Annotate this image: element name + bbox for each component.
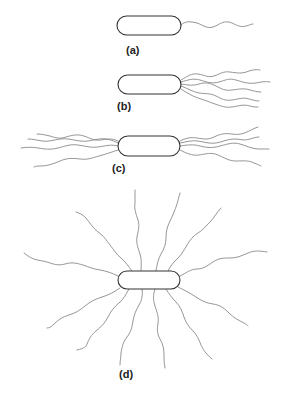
flagellum xyxy=(180,150,261,166)
flagellum xyxy=(178,287,248,326)
panel-label-b: (b) xyxy=(117,100,131,112)
flagellum xyxy=(154,289,166,368)
bacterium-cell xyxy=(118,75,181,94)
panel-label-d: (d) xyxy=(119,368,133,380)
bacterium-cell xyxy=(118,271,180,289)
flagella-arrangement-diagram xyxy=(0,0,288,408)
flagellum xyxy=(180,127,258,141)
panel-label-a: (a) xyxy=(126,44,139,56)
flagellum xyxy=(181,79,270,83)
flagellum xyxy=(24,253,118,276)
flagellum xyxy=(77,289,129,350)
flagellum xyxy=(180,143,269,149)
panel-c xyxy=(21,127,269,167)
panel-b xyxy=(118,70,270,108)
flagellum xyxy=(120,289,142,365)
flagellum xyxy=(47,288,120,328)
bacterium-cell xyxy=(117,16,181,35)
flagellum xyxy=(181,22,253,28)
panel-d xyxy=(24,190,267,368)
flagellum xyxy=(181,70,260,80)
flagellum xyxy=(180,251,267,276)
flagellum xyxy=(166,289,212,359)
flagellum xyxy=(21,145,118,149)
flagellum xyxy=(37,134,118,141)
flagellum xyxy=(76,212,132,271)
flagellum xyxy=(181,83,261,92)
flagellum xyxy=(34,150,118,167)
panel-a xyxy=(117,16,253,35)
bacterium-cell xyxy=(118,136,180,156)
panel-label-c: (c) xyxy=(112,162,125,174)
flagellum xyxy=(135,190,142,271)
